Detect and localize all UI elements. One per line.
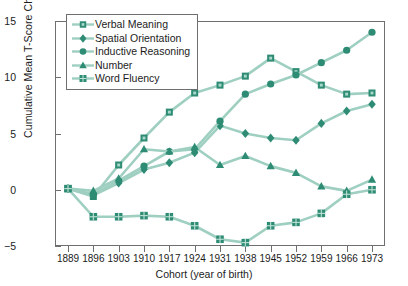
chart-legend: Verbal MeaningSpatial OrientationInducti… <box>66 14 198 90</box>
legend-item-label: Inductive Reasoning <box>95 45 190 59</box>
y-axis-tick <box>55 77 61 78</box>
x-axis-tick <box>296 246 297 252</box>
circle-icon <box>71 45 95 58</box>
x-axis-tick <box>144 246 145 252</box>
y-axis-tick <box>55 21 61 22</box>
diamond-icon <box>71 32 95 45</box>
x-axis-tick <box>372 246 373 252</box>
y-axis-tick-label: 10 <box>0 71 16 83</box>
x-axis-tick <box>169 246 170 252</box>
legend-item-spatial-orientation: Spatial Orientation <box>71 32 190 46</box>
y-axis-tick <box>55 246 61 247</box>
legend-item-label: Spatial Orientation <box>95 32 181 46</box>
y-axis-tick <box>55 190 61 191</box>
triangle-icon <box>71 59 95 72</box>
x-axis-tick <box>347 246 348 252</box>
legend-item-label: Word Fluency <box>95 72 160 86</box>
y-axis-tick-label: 5 <box>0 128 16 140</box>
x-axis-label: Cohort (year of birth) <box>0 268 408 280</box>
x-axis-tick <box>245 246 246 252</box>
x-axis-tick <box>68 246 69 252</box>
y-axis-tick-label: 15 <box>0 15 16 27</box>
x-axis-tick <box>220 246 221 252</box>
legend-item-word-fluency: Word Fluency <box>71 72 190 86</box>
y-axis-tick <box>55 134 61 135</box>
y-axis-tick-label: −5 <box>0 240 16 252</box>
square-icon <box>71 18 95 31</box>
x-axis-tick <box>271 246 272 252</box>
x-axis-tick <box>321 246 322 252</box>
y-axis-label: Cumulative Mean T-Score Change <box>22 0 34 146</box>
legend-item-label: Number <box>95 59 132 73</box>
legend-item-verbal-meaning: Verbal Meaning <box>71 18 190 32</box>
legend-item-label: Verbal Meaning <box>95 18 168 32</box>
x-axis-tick <box>195 246 196 252</box>
x-axis-tick-label: 1973 <box>355 253 389 264</box>
x-axis-tick <box>93 246 94 252</box>
legend-item-number: Number <box>71 59 190 73</box>
chart-figure: Cumulative Mean T-Score Change Cohort (y… <box>0 0 408 286</box>
legend-item-inductive-reasoning: Inductive Reasoning <box>71 45 190 59</box>
y-axis-tick-label: 0 <box>0 184 16 196</box>
grid-square-icon <box>71 72 95 85</box>
x-axis-tick <box>119 246 120 252</box>
